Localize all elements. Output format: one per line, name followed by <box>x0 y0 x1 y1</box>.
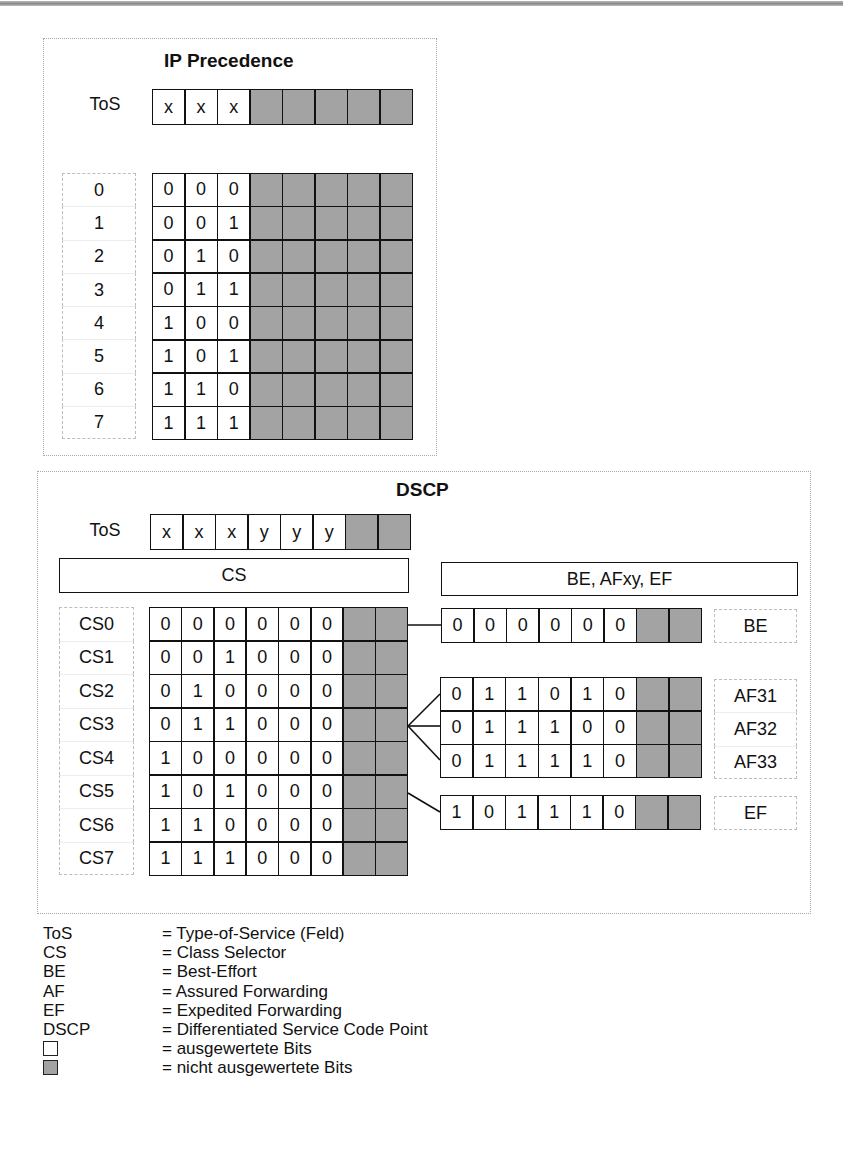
cs5-to-ef-line <box>408 793 440 812</box>
legend-row: EF= Expedited Forwarding <box>43 1001 428 1020</box>
legend-row: AF= Assured Forwarding <box>43 982 428 1001</box>
cs3-to-af33-line <box>408 726 440 760</box>
legend: ToS= Type-of-Service (Feld) CS= Class Se… <box>43 924 428 1078</box>
cs3-to-af31-line <box>408 694 440 726</box>
legend-row: BE= Best-Effort <box>43 962 428 981</box>
evaluated-bit-swatch-icon <box>43 1041 58 1056</box>
legend-row: = ausgewertete Bits <box>43 1039 428 1058</box>
legend-row: ToS= Type-of-Service (Feld) <box>43 924 428 943</box>
legend-row: = nicht ausgewertete Bits <box>43 1058 428 1077</box>
unevaluated-bit-swatch-icon <box>43 1060 58 1075</box>
legend-row: DSCP= Differentiated Service Code Point <box>43 1020 428 1039</box>
legend-row: CS= Class Selector <box>43 943 428 962</box>
